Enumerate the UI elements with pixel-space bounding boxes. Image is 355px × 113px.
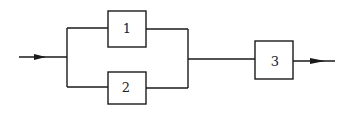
input-arrow-icon (34, 54, 46, 60)
block-diagram: 1 2 3 (0, 0, 355, 113)
block-2-label: 2 (122, 80, 130, 95)
block-1-label: 1 (123, 21, 131, 36)
block-3-label: 3 (271, 54, 279, 69)
diagram-svg: 1 2 3 (0, 0, 355, 113)
output-arrow-icon (310, 58, 325, 64)
